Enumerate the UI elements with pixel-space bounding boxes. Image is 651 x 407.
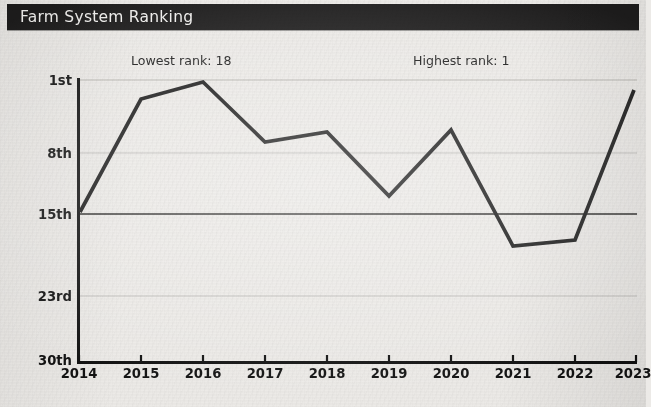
x-tick-2023: 2023: [615, 366, 651, 381]
x-tick-2020: 2020: [433, 366, 470, 381]
x-tick-2014: 2014: [61, 366, 98, 381]
x-tick-2016: 2016: [185, 366, 222, 381]
data-series-line: [80, 82, 634, 246]
x-tick-2015: 2015: [123, 366, 160, 381]
x-tick-2018: 2018: [309, 366, 346, 381]
x-tick-2022: 2022: [557, 366, 594, 381]
x-tick-2021: 2021: [495, 366, 532, 381]
grid-lines: [80, 80, 637, 296]
axes: [77, 78, 637, 364]
x-tick-2017: 2017: [247, 366, 284, 381]
x-tick-2019: 2019: [371, 366, 408, 381]
x-axis-labels: 2014 2015 2016 2017 2018 2019 2020 2021 …: [0, 366, 646, 396]
